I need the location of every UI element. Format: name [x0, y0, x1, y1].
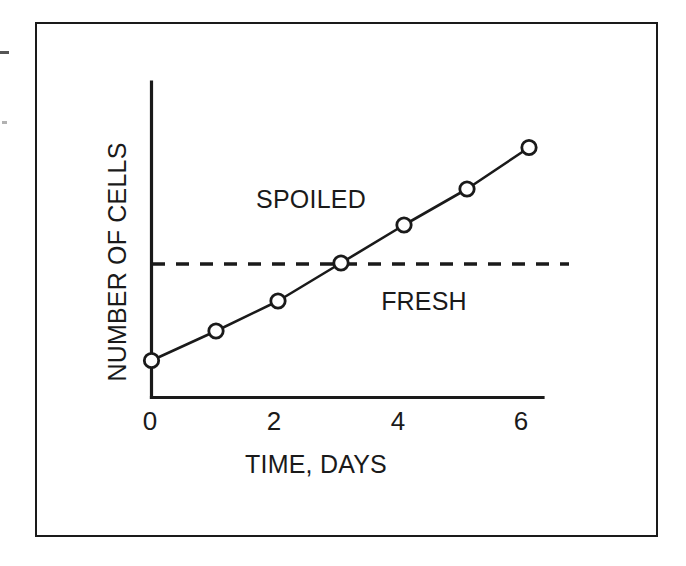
data-point-marker	[271, 294, 285, 308]
data-point-marker	[522, 140, 536, 154]
data-point-marker	[209, 324, 223, 338]
data-point-marker	[144, 353, 158, 367]
data-point-marker	[397, 218, 411, 232]
x-axis-tick-label-2: 2	[267, 406, 282, 437]
y-axis-title: NUMBER OF CELLS	[103, 142, 132, 381]
x-axis-title: TIME, DAYS	[245, 450, 387, 479]
region-label-fresh: FRESH	[381, 287, 467, 316]
x-axis-tick-label-6: 6	[514, 406, 529, 437]
region-label-spoiled: SPOILED	[256, 185, 366, 214]
x-axis-tick-label-4: 4	[391, 406, 406, 437]
data-point-marker	[460, 182, 474, 196]
x-axis-tick-label-0: 0	[143, 406, 158, 437]
figure-root: NUMBER OF CELLS SPOILED FRESH 0 2 4 6 TI…	[0, 0, 686, 566]
data-point-marker	[334, 256, 348, 270]
